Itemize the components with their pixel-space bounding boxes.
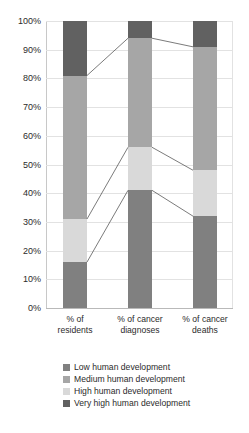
bar-segment	[128, 190, 152, 308]
bar-segment	[128, 147, 152, 190]
bar-segment	[128, 38, 152, 147]
bar-segment	[63, 262, 87, 308]
x-axis-label-1: % ofresidents	[43, 314, 107, 336]
y-axis-tick-label: 40%	[0, 189, 41, 198]
bar-segment	[193, 47, 217, 170]
plot-area	[46, 21, 233, 308]
x-axis-label-3: % of cancerdeaths	[173, 314, 237, 336]
legend-swatch-icon	[63, 400, 70, 407]
stacked-bar-chart: 100%90%80%70%60%50%40%30%20%10%0% % ofre…	[0, 0, 249, 433]
bar-3	[193, 21, 217, 308]
legend-item-label: Low human development	[74, 362, 170, 372]
legend-item-label: High human development	[74, 386, 172, 396]
connector-line	[152, 190, 193, 216]
connector-line	[87, 147, 128, 219]
y-axis-tick-label: 20%	[0, 247, 41, 256]
y-axis-tick-label: 60%	[0, 132, 41, 141]
y-axis-tick-label: 70%	[0, 103, 41, 112]
connector-line	[152, 38, 193, 47]
x-axis-label-line: % of	[43, 314, 107, 325]
bar-1	[63, 21, 87, 308]
legend-swatch-icon	[63, 376, 70, 383]
y-axis-tick-label: 30%	[0, 218, 41, 227]
legend-swatch-icon	[63, 364, 70, 371]
legend-item-1[interactable]: Low human development	[63, 361, 190, 373]
bar-segment	[193, 216, 217, 308]
y-axis-tick-label: 0%	[0, 304, 41, 313]
legend-item-label: Very high human development	[74, 398, 190, 408]
connector-line	[152, 147, 193, 170]
gridline	[46, 308, 233, 309]
bar-segment	[193, 170, 217, 216]
bar-segment	[128, 21, 152, 38]
bar-segment	[63, 219, 87, 262]
legend-item-label: Medium human development	[74, 374, 185, 384]
bar-segment	[63, 76, 87, 220]
legend-item-4[interactable]: Very high human development	[63, 397, 190, 409]
legend-item-2[interactable]: Medium human development	[63, 373, 190, 385]
x-axis-label-line: residents	[43, 325, 107, 336]
x-axis-label-2: % of cancerdiagnoses	[108, 314, 172, 336]
y-axis-tick-label: 90%	[0, 46, 41, 55]
x-axis-label-line: deaths	[173, 325, 237, 336]
y-axis-tick-label: 10%	[0, 275, 41, 284]
legend: Low human developmentMedium human develo…	[63, 361, 190, 409]
bar-2	[128, 21, 152, 308]
y-axis-tick-label: 50%	[0, 161, 41, 170]
y-axis-tick-label: 100%	[0, 17, 41, 26]
legend-item-3[interactable]: High human development	[63, 385, 190, 397]
connector-line	[87, 38, 128, 75]
bar-segment	[63, 21, 87, 76]
bar-segment	[193, 21, 217, 47]
legend-swatch-icon	[63, 388, 70, 395]
x-axis-label-line: % of cancer	[108, 314, 172, 325]
x-axis-label-line: diagnoses	[108, 325, 172, 336]
y-axis-tick-label: 80%	[0, 74, 41, 83]
x-axis-label-line: % of cancer	[173, 314, 237, 325]
